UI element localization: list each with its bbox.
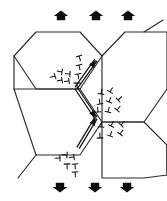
dislocation-stem	[75, 172, 76, 177]
figure-background	[0, 0, 167, 201]
hexagonal-grain-figure: Hexagonal grain structure with grain-bou…	[0, 0, 167, 201]
grain-structure-diagram	[0, 0, 167, 201]
dislocation-stem	[69, 157, 74, 158]
dislocation-stem	[101, 122, 102, 127]
dislocation-bar	[98, 127, 105, 128]
dislocation-bar	[69, 78, 70, 84]
dislocation-stem	[78, 74, 79, 79]
dislocation-stem	[99, 99, 100, 104]
dislocation-stem	[64, 81, 69, 82]
dislocation-bar	[74, 154, 75, 161]
dislocation-bar	[72, 172, 79, 173]
